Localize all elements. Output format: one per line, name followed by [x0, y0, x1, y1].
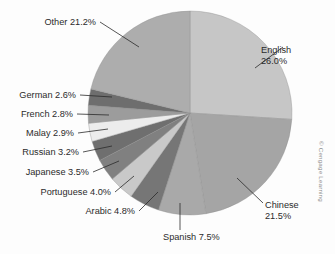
- pie-label-japanese: Japanese 3.5%: [26, 167, 89, 177]
- pie-label-spanish: Spanish 7.5%: [163, 232, 220, 242]
- pie-slice-chinese: [190, 113, 292, 214]
- pie-label-arabic: Arabic 4.8%: [85, 206, 135, 216]
- pie-label-german: German 2.6%: [19, 90, 76, 100]
- pie-label-malay: Malay 2.9%: [26, 128, 74, 138]
- pie-label-chinese-value: 21.5%: [265, 211, 291, 221]
- pie-label-chinese: Chinese: [265, 200, 299, 210]
- pie-label-other: Other 21.2%: [44, 17, 96, 27]
- pie-label-english-value: 26.0%: [261, 56, 287, 66]
- pie-chart: Other 21.2% English 26.0% German 2.6% Fr…: [0, 0, 335, 254]
- copyright-credit: © Cengage Learning: [318, 137, 325, 207]
- pie-slice-group: [88, 11, 292, 215]
- pie-label-portuguese: Portuguese 4.0%: [41, 187, 112, 197]
- pie-label-russian: Russian 3.2%: [22, 147, 79, 157]
- pie-label-english: English: [261, 45, 291, 55]
- pie-chart-figure: Other 21.2% English 26.0% German 2.6% Fr…: [0, 0, 335, 254]
- pie-label-french: French 2.8%: [21, 109, 73, 119]
